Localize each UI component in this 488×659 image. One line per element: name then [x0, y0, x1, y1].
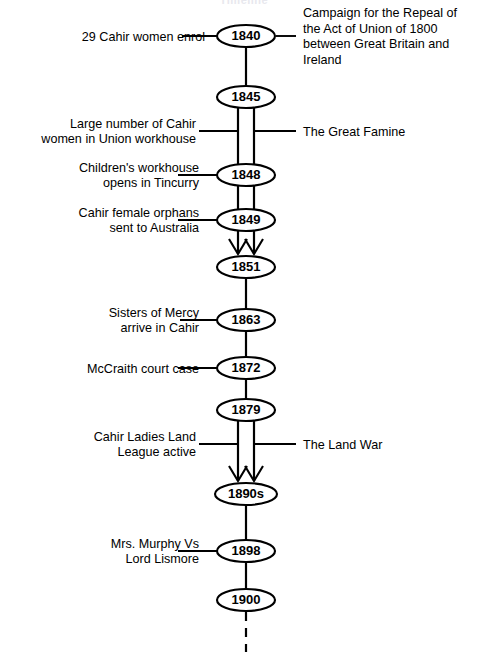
annotation-line: opens in Tincurry — [103, 176, 200, 190]
node-year-label: 1845 — [232, 89, 261, 104]
annotation-line: Lord Lismore — [126, 552, 200, 566]
annotation-line: Mrs. Murphy Vs — [111, 537, 199, 551]
annotation-line: between Great Britain and — [303, 37, 449, 51]
timeline-segment-n1879-n1890s — [229, 421, 263, 481]
timeline-node-1863[interactable]: 1863 — [217, 309, 275, 331]
annotation-line: League active — [118, 445, 196, 459]
node-year-label: 1851 — [232, 259, 261, 274]
annotation-a-1849-left: Cahir female orphanssent to Australia — [79, 206, 199, 236]
annotation-line: the Act of Union of 1800 — [303, 22, 437, 36]
timeline-diagram: 184018451848184918511863187218791890s189… — [0, 0, 488, 659]
node-year-label: 1849 — [232, 212, 261, 227]
annotation-line: Ireland — [303, 53, 342, 67]
timeline-node-1840[interactable]: 1840 — [217, 25, 275, 47]
annotation-line: Children's workhouse — [79, 161, 199, 175]
timeline-node-1851[interactable]: 1851 — [217, 256, 275, 278]
annotation-line: The Land War — [303, 438, 382, 452]
annotation-line: The Great Famine — [303, 125, 405, 139]
node-year-label: 1879 — [232, 402, 261, 417]
timeline-node-1900[interactable]: 1900 — [217, 589, 275, 611]
annotation-a-famine-left: Large number of Cahirwomen in Union work… — [40, 117, 196, 147]
node-year-label: 1900 — [232, 592, 261, 607]
node-year-label: 1872 — [232, 360, 261, 375]
annotation-a-1898-left: Mrs. Murphy VsLord Lismore — [111, 537, 199, 567]
annotation-line: Sisters of Mercy — [109, 306, 200, 320]
annotation-a-landwar-left: Cahir Ladies LandLeague active — [94, 430, 196, 460]
annotation-line: Cahir female orphans — [79, 206, 199, 220]
annotation-line: women in Union workhouse — [40, 132, 196, 146]
timeline-node-1848[interactable]: 1848 — [217, 164, 275, 186]
timeline-node-1890s[interactable]: 1890s — [215, 483, 277, 505]
annotation-a-1863-left: Sisters of Mercyarrive in Cahir — [109, 306, 200, 336]
annotation-a-1872-left: McCraith court case — [87, 362, 199, 376]
timeline-segment-n1849-n1851 — [229, 231, 263, 254]
node-year-label: 1863 — [232, 312, 261, 327]
annotation-line: Large number of Cahir — [70, 117, 196, 131]
annotation-line: McCraith court case — [87, 362, 199, 376]
annotation-a-landwar-right: The Land War — [303, 438, 382, 452]
node-year-label: 1848 — [232, 167, 261, 182]
annotation-a-1840-left: 29 Cahir women enrol — [82, 30, 205, 44]
timeline-node-1849[interactable]: 1849 — [217, 209, 275, 231]
timeline-node-1845[interactable]: 1845 — [217, 86, 275, 108]
node-year-label: 1898 — [232, 543, 261, 558]
annotation-a-1840-right: Campaign for the Repeal ofthe Act of Uni… — [303, 6, 458, 67]
timeline-segment-n1848-n1849 — [238, 186, 254, 209]
timeline-node-1898[interactable]: 1898 — [217, 540, 275, 562]
annotation-line: sent to Australia — [109, 221, 199, 235]
annotation-line: Campaign for the Repeal of — [303, 6, 458, 20]
annotation-a-1848-left: Children's workhouseopens in Tincurry — [79, 161, 200, 191]
annotation-line: 29 Cahir women enrol — [82, 30, 205, 44]
annotation-line: arrive in Cahir — [121, 321, 199, 335]
timeline-node-1879[interactable]: 1879 — [217, 399, 275, 421]
annotation-a-famine-right: The Great Famine — [303, 125, 405, 139]
node-year-label: 1890s — [228, 486, 264, 501]
timeline-node-1872[interactable]: 1872 — [217, 357, 275, 379]
annotation-line: Cahir Ladies Land — [94, 430, 196, 444]
timeline-segment-n1845-n1848 — [238, 108, 254, 164]
node-year-label: 1840 — [232, 28, 261, 43]
